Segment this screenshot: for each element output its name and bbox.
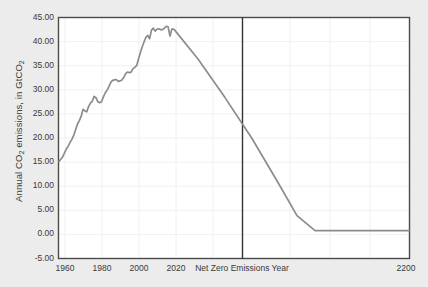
chart-figure: Annual CO2 emissions, in GtCO2 45.00 40.… [0, 0, 428, 287]
chart-plot-area [0, 0, 428, 287]
